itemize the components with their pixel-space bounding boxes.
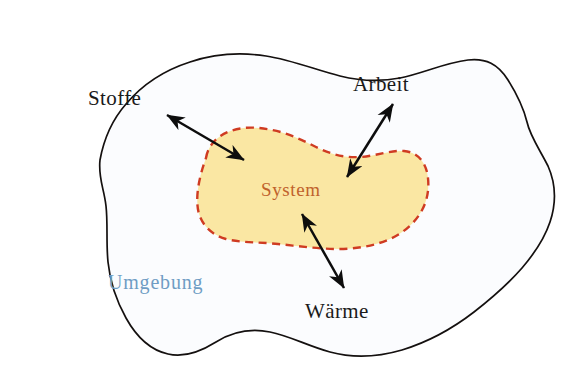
label-system: System (261, 179, 321, 200)
label-arbeit: Arbeit (353, 72, 409, 96)
label-umgebung: Umgebung (108, 271, 203, 294)
label-stoffe: Stoffe (88, 86, 141, 110)
system-surroundings-diagram: Stoffe Arbeit Wärme System Umgebung (0, 0, 575, 373)
diagram-canvas: Stoffe Arbeit Wärme System Umgebung (0, 0, 575, 373)
label-waerme: Wärme (305, 299, 369, 323)
